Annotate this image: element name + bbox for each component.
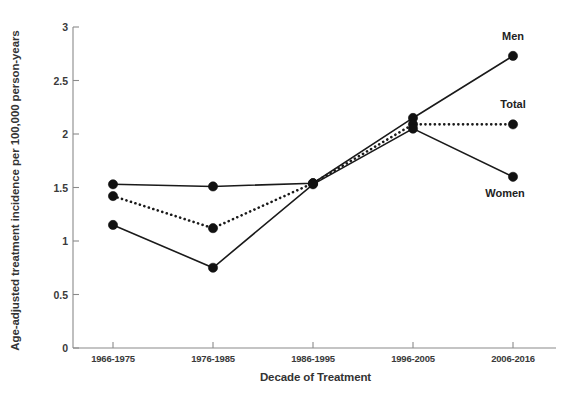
y-tick-label: 2.5 — [53, 75, 68, 87]
data-point — [108, 191, 117, 200]
y-tick-marks — [73, 27, 79, 348]
series-line-total — [113, 124, 513, 228]
series-label-total: Total — [500, 98, 525, 110]
data-point — [508, 172, 517, 181]
y-tick-label: 1.5 — [53, 182, 68, 194]
data-point — [408, 124, 417, 133]
series-label-women: Women — [485, 187, 525, 199]
y-tick-label: 1 — [62, 235, 68, 247]
y-tick-labels: 3 2.5 2 1.5 1 0.5 0 — [53, 21, 68, 354]
series-label-men: Men — [502, 30, 524, 42]
y-tick-label: 0 — [62, 342, 68, 354]
x-tick-label: 2006-2016 — [491, 353, 535, 364]
series-total — [108, 120, 517, 233]
chart-container: Age-adjusted treatment incidence per 100… — [0, 0, 569, 395]
data-point — [208, 224, 217, 233]
series-line-women — [113, 129, 513, 268]
y-tick-label: 2 — [62, 128, 68, 140]
y-tick-label: 3 — [62, 21, 68, 33]
x-tick-label: 1986-1995 — [291, 353, 336, 364]
x-tick-marks — [113, 342, 513, 348]
series-women — [108, 124, 517, 272]
plot-area: 3 2.5 2 1.5 1 0.5 0 1966-1975 1976-1985 … — [0, 0, 569, 395]
x-tick-label: 1996-2005 — [391, 353, 436, 364]
data-point — [308, 180, 317, 189]
x-tick-label: 1966-1975 — [91, 353, 136, 364]
series-line-men — [113, 56, 513, 187]
data-point — [508, 51, 517, 60]
data-point — [208, 263, 217, 272]
y-tick-label: 0.5 — [53, 289, 68, 301]
data-point — [108, 220, 117, 229]
series-men — [108, 51, 517, 191]
x-tick-label: 1976-1985 — [191, 353, 236, 364]
data-point — [108, 180, 117, 189]
x-tick-labels: 1966-1975 1976-1985 1986-1995 1996-2005 … — [91, 353, 535, 364]
series-layer — [108, 51, 517, 272]
data-point — [508, 120, 517, 129]
data-point — [208, 182, 217, 191]
